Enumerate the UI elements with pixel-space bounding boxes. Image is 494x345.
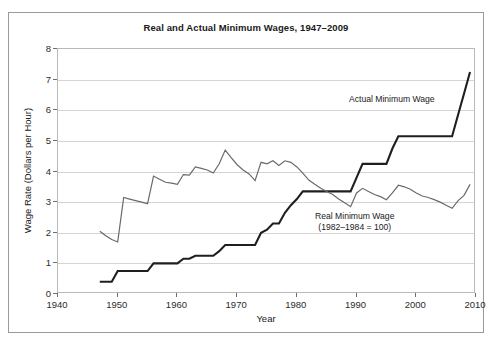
y-tick-label: 4 [46, 165, 51, 176]
y-tick-label: 2 [46, 226, 51, 237]
y-tick-mark [53, 140, 57, 141]
x-tick-mark [236, 293, 237, 297]
x-tick-label: 1970 [226, 299, 247, 310]
chart-figure: Real and Actual Minimum Wages, 1947–2009… [8, 12, 484, 333]
y-tick-label: 5 [46, 134, 51, 145]
y-tick-label: 8 [46, 43, 51, 54]
y-tick-label: 0 [46, 288, 51, 299]
x-tick-label: 2000 [405, 299, 426, 310]
y-tick-label: 3 [46, 196, 51, 207]
y-axis-label: Wage Rate (Dollars per Hour) [21, 48, 35, 293]
x-tick-label: 1980 [285, 299, 306, 310]
x-tick-mark [356, 293, 357, 297]
x-tick-mark [57, 293, 58, 297]
y-tick-label: 7 [46, 73, 51, 84]
annotation-actual-minimum-wage: Actual Minimum Wage [349, 94, 435, 105]
x-tick-label: 1940 [46, 299, 67, 310]
x-tick-mark [176, 293, 177, 297]
plot-wrapper: 012345678 194019501960197019801990200020… [57, 48, 475, 293]
x-tick-mark [117, 293, 118, 297]
annotation-real-line2: (1982–1984 = 100) [315, 222, 394, 233]
annotation-real-line1: Real Minimum Wage [315, 211, 394, 222]
y-tick-mark [53, 48, 57, 49]
y-tick-mark [53, 201, 57, 202]
y-tick-mark [53, 232, 57, 233]
series-layer [58, 49, 476, 294]
x-axis-label: Year [57, 313, 475, 324]
y-tick-label: 6 [46, 104, 51, 115]
x-tick-mark [475, 293, 476, 297]
y-tick-label: 1 [46, 257, 51, 268]
x-tick-label: 2010 [464, 299, 485, 310]
series-line-real-minimum-wage [100, 150, 470, 242]
x-tick-mark [415, 293, 416, 297]
y-tick-mark [53, 262, 57, 263]
plot-area [57, 48, 475, 293]
x-tick-label: 1950 [106, 299, 127, 310]
annotation-real-minimum-wage: Real Minimum Wage (1982–1984 = 100) [315, 211, 394, 232]
y-tick-mark [53, 171, 57, 172]
y-axis-label-text: Wage Rate (Dollars per Hour) [23, 108, 34, 233]
y-tick-mark [53, 109, 57, 110]
x-tick-label: 1960 [166, 299, 187, 310]
x-tick-mark [296, 293, 297, 297]
chart-title: Real and Actual Minimum Wages, 1947–2009 [9, 22, 483, 33]
x-tick-label: 1990 [345, 299, 366, 310]
y-tick-mark [53, 79, 57, 80]
annotation-actual-line1: Actual Minimum Wage [349, 94, 435, 105]
